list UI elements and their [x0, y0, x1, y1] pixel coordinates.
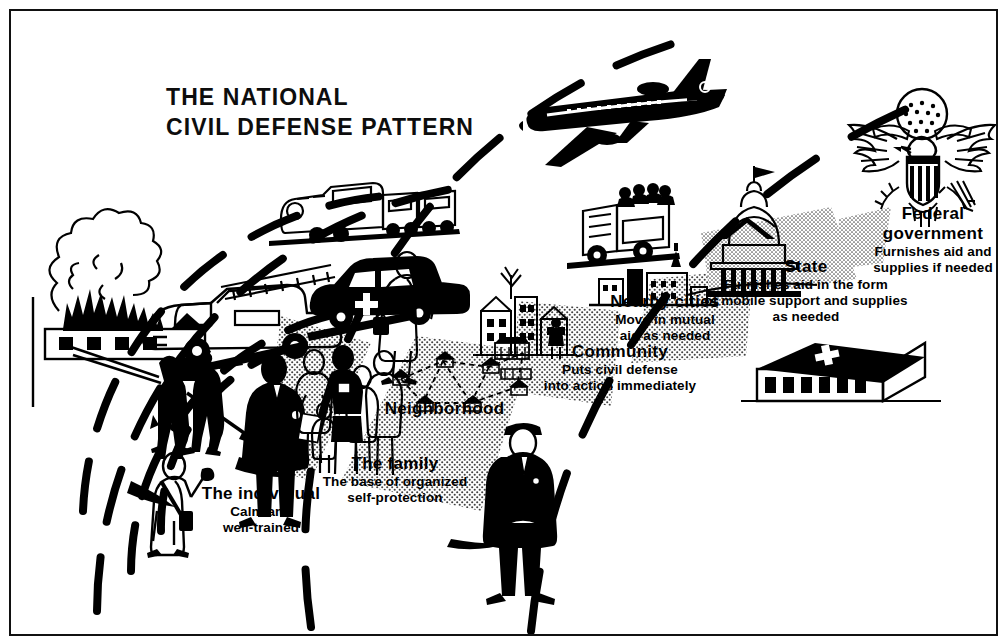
- civil-defense-poster: THE NATIONAL CIVIL DEFENSE PATTERN The i…: [9, 9, 998, 636]
- label-federal-heading-line2: government: [857, 224, 998, 244]
- label-family: The family The base of organized self-pr…: [297, 454, 493, 506]
- label-federal-line2: supplies if needed: [857, 260, 998, 276]
- label-neighborhood: Neighborhood: [372, 399, 517, 419]
- label-nearby-cities-line2: aid as needed: [587, 328, 743, 344]
- label-state-line1: Furnishes aid in the form: [699, 277, 913, 293]
- label-neighborhood-heading: Neighborhood: [372, 399, 517, 419]
- jet-airliner: [519, 59, 727, 167]
- label-family-heading: The family: [297, 454, 493, 474]
- title-line-2: CIVIL DEFENSE PATTERN: [166, 113, 474, 143]
- label-federal-heading-line1: Federal: [857, 204, 998, 224]
- label-individual-line2: well-trained: [189, 520, 333, 536]
- label-state-line3: as needed: [718, 309, 894, 325]
- title-line-1: THE NATIONAL: [166, 83, 474, 113]
- label-community: Community Puts civil defense into action…: [529, 342, 711, 394]
- label-community-line1: Puts civil defense: [529, 362, 711, 378]
- page-title: THE NATIONAL CIVIL DEFENSE PATTERN: [166, 83, 474, 143]
- supply-depot-building-with-cross: [741, 343, 941, 401]
- label-family-line2: self-protection: [297, 490, 493, 506]
- label-community-line2: into action immediately: [529, 378, 711, 394]
- label-family-line1: The base of organized: [297, 474, 493, 490]
- label-federal-line1: Furnishes aid and: [857, 244, 998, 260]
- poster-canvas: THE NATIONAL CIVIL DEFENSE PATTERN The i…: [0, 0, 1003, 641]
- burning-building-with-smoke: [33, 209, 209, 407]
- label-federal: Federal government Furnishes aid and sup…: [857, 204, 998, 276]
- label-individual-line1: Calm and: [189, 504, 333, 520]
- label-state-line2: of mobile support and supplies: [689, 293, 923, 309]
- label-community-heading: Community: [529, 342, 711, 362]
- rescue-truck-with-crew: [567, 183, 680, 269]
